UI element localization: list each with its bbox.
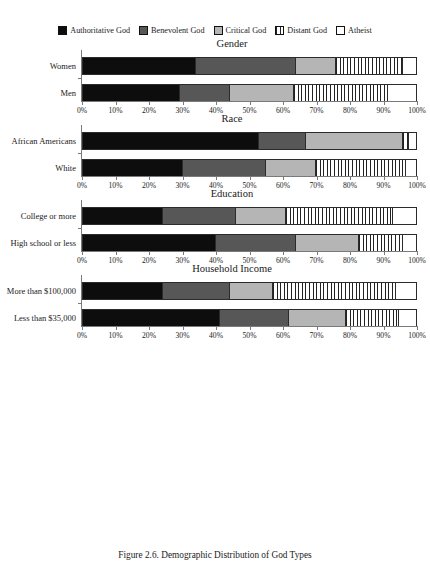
x-axis-tick bbox=[82, 176, 83, 180]
x-axis-tick bbox=[183, 176, 184, 180]
legend-entry: Atheist bbox=[336, 26, 372, 35]
x-axis-tick bbox=[250, 101, 251, 105]
x-axis-tick bbox=[384, 176, 385, 180]
chart-panel: Household IncomeMore than $100,000Less t… bbox=[0, 262, 430, 337]
x-axis-tick-label: 80% bbox=[343, 331, 357, 340]
legend-entry: Distant God bbox=[275, 26, 327, 35]
legend-label: Critical God bbox=[226, 26, 267, 35]
x-axis-tick bbox=[82, 251, 83, 255]
bar-segment bbox=[294, 85, 387, 101]
bar-segment bbox=[346, 310, 399, 326]
x-axis-tick bbox=[417, 176, 418, 180]
x-axis-tick bbox=[317, 251, 318, 255]
bar-segment bbox=[409, 133, 416, 149]
x-axis-tick bbox=[250, 176, 251, 180]
panel-title: Household Income bbox=[34, 262, 430, 275]
bar-segment bbox=[403, 58, 416, 74]
x-axis-tick bbox=[149, 326, 150, 330]
x-axis-tick bbox=[417, 326, 418, 330]
bar-segment bbox=[316, 160, 406, 176]
bar-segment bbox=[83, 235, 216, 251]
x-axis-tick bbox=[317, 101, 318, 105]
plot-area: African AmericansWhite0%10%20%30%40%50%6… bbox=[82, 125, 417, 187]
panel-title: Race bbox=[34, 112, 430, 125]
x-axis-tick-label: 60% bbox=[276, 331, 290, 340]
x-axis-tick bbox=[384, 251, 385, 255]
x-axis-tick bbox=[116, 101, 117, 105]
x-axis-tick-label: 20% bbox=[142, 331, 156, 340]
x-axis: 0%10%20%30%40%50%60%70%80%90%100% bbox=[82, 101, 417, 102]
x-axis-tick bbox=[149, 176, 150, 180]
legend-label: Distant God bbox=[287, 26, 327, 35]
bar-segment bbox=[83, 58, 196, 74]
bar-row-label: African Americans bbox=[12, 132, 76, 150]
y-axis-tick bbox=[78, 153, 82, 154]
plot-area: WomenMen0%10%20%30%40%50%60%70%80%90%100… bbox=[82, 50, 417, 112]
bar-row-label: White bbox=[55, 159, 76, 177]
bar-segment bbox=[163, 283, 230, 299]
legend-entry: Authoritative God bbox=[58, 26, 130, 35]
x-axis-tick bbox=[384, 101, 385, 105]
x-axis-tick bbox=[350, 251, 351, 255]
x-axis-tick bbox=[417, 101, 418, 105]
x-axis-tick-label: 10% bbox=[109, 331, 123, 340]
chart-panel: GenderWomenMen0%10%20%30%40%50%60%70%80%… bbox=[0, 37, 430, 112]
bar-segment bbox=[266, 160, 316, 176]
bar-segment bbox=[83, 133, 259, 149]
bar-segment bbox=[230, 283, 273, 299]
legend-swatch-critical-icon bbox=[214, 26, 223, 35]
bar-segment bbox=[273, 283, 396, 299]
legend-swatch-atheist-icon bbox=[336, 26, 345, 35]
x-axis-tick bbox=[350, 176, 351, 180]
x-axis-tick-label: 0% bbox=[77, 331, 87, 340]
legend-label: Benevolent God bbox=[151, 26, 204, 35]
x-axis-tick bbox=[250, 251, 251, 255]
bar-segment bbox=[406, 160, 416, 176]
x-axis-tick bbox=[250, 326, 251, 330]
bar-row-label: Men bbox=[60, 84, 76, 102]
bar-segment bbox=[403, 133, 410, 149]
bar-row-label: Women bbox=[50, 57, 76, 75]
bar-row: Less than $35,000 bbox=[82, 309, 417, 327]
x-axis-tick-label: 70% bbox=[310, 331, 324, 340]
x-axis-tick bbox=[417, 251, 418, 255]
bar-segment bbox=[83, 160, 183, 176]
x-axis-tick bbox=[116, 176, 117, 180]
plot-area: More than $100,000Less than $35,0000%10%… bbox=[82, 275, 417, 337]
x-axis-tick bbox=[183, 251, 184, 255]
x-axis-tick bbox=[149, 101, 150, 105]
y-axis-tick bbox=[78, 78, 82, 79]
x-axis-tick bbox=[283, 326, 284, 330]
x-axis-tick bbox=[216, 251, 217, 255]
panel-title: Education bbox=[34, 187, 430, 200]
bar-row-label: More than $100,000 bbox=[7, 282, 76, 300]
x-axis: 0%10%20%30%40%50%60%70%80%90%100% bbox=[82, 326, 417, 327]
y-axis-tick bbox=[78, 228, 82, 229]
bar-segment bbox=[83, 85, 180, 101]
bar-segment bbox=[83, 310, 220, 326]
x-axis-tick bbox=[283, 176, 284, 180]
bar-segment bbox=[296, 58, 336, 74]
bar-row: College or more bbox=[82, 207, 417, 225]
chart-panel: EducationCollege or moreHigh school or l… bbox=[0, 187, 430, 262]
bar-segment bbox=[216, 235, 296, 251]
x-axis: 0%10%20%30%40%50%60%70%80%90%100% bbox=[82, 176, 417, 177]
stacked-bar bbox=[82, 159, 417, 177]
x-axis-tick-label: 30% bbox=[176, 331, 190, 340]
bar-row: African Americans bbox=[82, 132, 417, 150]
bar-segment bbox=[296, 235, 359, 251]
bar-row-label: College or more bbox=[21, 207, 76, 225]
bar-segment bbox=[396, 283, 416, 299]
stacked-bar bbox=[82, 309, 417, 327]
x-axis-tick bbox=[216, 326, 217, 330]
x-axis-tick-label: 90% bbox=[377, 331, 391, 340]
chart-legend: Authoritative GodBenevolent GodCritical … bbox=[0, 23, 430, 37]
bar-row: More than $100,000 bbox=[82, 282, 417, 300]
x-axis-tick bbox=[82, 326, 83, 330]
legend-swatch-benevolent-icon bbox=[139, 26, 148, 35]
bar-row-label: High school or less bbox=[11, 234, 76, 252]
figure-caption: Figure 2.6. Demographic Distribution of … bbox=[0, 550, 430, 561]
x-axis-tick bbox=[384, 326, 385, 330]
x-axis-tick bbox=[216, 176, 217, 180]
legend-swatch-distant-icon bbox=[275, 26, 284, 35]
